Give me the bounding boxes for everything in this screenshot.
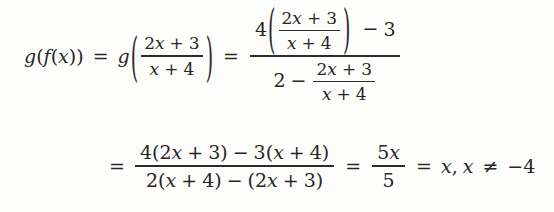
expanded-fraction-numerator: 4(2x+3)−3(x+4) (135, 141, 334, 163)
expanded-den-term2-operator: + (283, 169, 299, 191)
fraction-bar (141, 55, 203, 57)
domain-excluded-value: −4 (507, 155, 535, 177)
nested-denom-denominator: x+4 (319, 84, 370, 104)
nested-numerator: 2x+3 (279, 8, 341, 28)
numerator-minus-operator: − (362, 17, 378, 39)
denominator-variable: x (150, 59, 160, 79)
reduced-fraction-bar (372, 165, 405, 167)
expanded-den-minus-operator: − (227, 169, 243, 191)
expanded-den-term2-variable: x (267, 169, 278, 191)
expanded-num-term1-constant: 3 (208, 141, 220, 163)
big-paren-close-1: ) (206, 26, 213, 87)
nested-denominator-variable: x (287, 33, 297, 53)
nested-denominator-operator: + (302, 33, 316, 53)
expanded-fraction-bar (135, 165, 334, 167)
big-paren-open-1: ( (131, 26, 138, 87)
expanded-num-term1-coefficient: 4 (140, 141, 152, 163)
fraction-denominator: x+4 (147, 59, 198, 79)
variable-x: x (58, 45, 69, 67)
expanded-fraction: 4(2x+3)−3(x+4) 2(x+4)−(2x+3) (135, 141, 334, 192)
reduced-fraction-denominator: 5 (378, 169, 400, 191)
expanded-num-term2-coefficient: 3 (254, 141, 266, 163)
nested-numerator-coefficient: 2 (282, 8, 293, 28)
nested-denom-denominator-constant: 4 (356, 84, 367, 104)
nested-denom-denominator-variable: x (322, 84, 332, 104)
function-g-symbol: g (24, 45, 36, 67)
expanded-den-term1-operator: + (181, 169, 197, 191)
denominator-operator: + (164, 59, 178, 79)
nested-numerator-variable: x (292, 8, 302, 28)
function-g-applied: g (118, 45, 130, 67)
nested-fraction-denominator: 2x+3 x+4 (313, 59, 375, 105)
equals-sign-3: = (109, 155, 125, 177)
expanded-den-term2-coefficient: 2 (255, 169, 267, 191)
complex-fraction-numerator: 4( 2x+3 x+4 ) −3 (250, 8, 401, 54)
nested-denominator-constant: 4 (321, 33, 332, 53)
nested-numerator-operator: + (307, 8, 321, 28)
nested-denom-numerator: 2x+3 (313, 59, 375, 79)
result-comma: , (452, 155, 458, 177)
equals-sign-4: = (345, 155, 361, 177)
fraction-f-of-x: 2x+3 x+4 (141, 33, 203, 79)
expanded-den-term2-constant: 3 (304, 169, 316, 191)
denominator-leading-constant: 2 (273, 69, 285, 91)
expanded-num-term1-paren-close: ) (220, 141, 227, 163)
composition-notation: g(f(x)) (24, 45, 84, 67)
numerator-operator: + (170, 33, 184, 53)
numerator-coefficient: 2 (144, 33, 155, 53)
paren-open-inner: ( (51, 45, 58, 67)
nested-denom-numerator-coefficient: 2 (316, 59, 327, 79)
numerator-constant: 3 (189, 33, 200, 53)
nested-numerator-constant: 3 (326, 8, 337, 28)
expanded-num-term2-paren-close: ) (322, 141, 329, 163)
equals-sign-2: = (223, 45, 239, 67)
big-paren-open-2: ( (268, 0, 275, 59)
big-paren-close-2: ) (343, 0, 350, 59)
nested-fraction-numerator: 2x+3 x+4 (279, 8, 341, 54)
nested-denom-denominator-operator: + (336, 84, 350, 104)
reduced-numerator-coefficient: 5 (377, 141, 389, 163)
numerator-variable: x (155, 33, 165, 53)
numerator-multiplier: 4 (255, 17, 267, 39)
reduced-numerator-variable: x (389, 141, 400, 163)
nested-denom-numerator-constant: 3 (361, 59, 372, 79)
nested-fraction-bar (279, 30, 341, 32)
nested-denom-numerator-operator: + (342, 59, 356, 79)
nested-denominator: x+4 (284, 33, 335, 53)
expanded-num-minus-operator: − (233, 141, 249, 163)
expanded-den-term1-coefficient: 2 (146, 169, 158, 191)
numerator-trailing-constant: 3 (383, 17, 395, 39)
nested-denom-numerator-variable: x (327, 59, 337, 79)
nested-denom-fraction-bar (313, 81, 375, 83)
equals-sign-5: = (416, 155, 432, 177)
expanded-num-term1-inner-coefficient: 2 (159, 141, 171, 163)
denominator-minus-operator: − (291, 69, 307, 91)
expanded-num-term2-operator: + (289, 141, 305, 163)
expanded-num-term1-variable: x (172, 141, 183, 163)
not-equal-sign: ≠ (482, 155, 498, 177)
paren-close-outer: ) (76, 45, 83, 67)
expanded-den-term1-paren-close: ) (214, 169, 221, 191)
function-f-symbol: f (44, 45, 51, 67)
expanded-num-term2-paren-open: ( (266, 141, 273, 163)
expanded-den-term1-constant: 4 (202, 169, 214, 191)
final-result: x (441, 155, 452, 177)
expanded-num-term1-operator: + (187, 141, 203, 163)
expanded-num-term2-variable: x (273, 141, 284, 163)
domain-variable: x (463, 155, 474, 177)
equation-line-1: g(f(x)) = g ( 2x+3 x+4 ) = 4( 2x+3 x+4 )… (24, 8, 402, 104)
expanded-den-term1-variable: x (165, 169, 176, 191)
equals-sign-1: = (93, 45, 109, 67)
equation-line-2: = 4(2x+3)−3(x+4) 2(x+4)−(2x+3) = 5x 5 = … (100, 126, 535, 206)
denominator-constant: 4 (183, 59, 194, 79)
expanded-den-term2-paren-close: ) (316, 169, 323, 191)
fraction-numerator: 2x+3 (141, 33, 203, 53)
paren-open-outer: ( (36, 45, 43, 67)
complex-fraction-denominator: 2− 2x+3 x+4 (268, 59, 382, 105)
reduced-fraction: 5x 5 (372, 141, 405, 192)
equation-figure: g(f(x)) = g ( 2x+3 x+4 ) = 4( 2x+3 x+4 )… (0, 0, 554, 212)
complex-fraction: 4( 2x+3 x+4 ) −3 2− 2x+3 x+4 (250, 8, 401, 105)
reduced-fraction-numerator: 5x (372, 141, 405, 163)
expanded-den-term2-paren-open: ( (248, 169, 255, 191)
expanded-fraction-denominator: 2(x+4)−(2x+3) (141, 169, 328, 191)
